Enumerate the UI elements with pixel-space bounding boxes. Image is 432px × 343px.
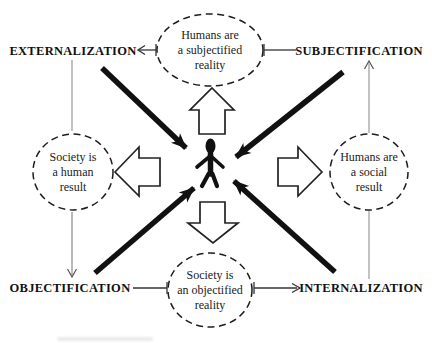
statement-line: Humans are bbox=[309, 150, 429, 165]
block-arrow-down-icon bbox=[188, 202, 238, 243]
statement-line: result bbox=[309, 180, 429, 195]
connector-left-ellipse-to-objectification bbox=[68, 212, 77, 277]
statement-line: Humans are bbox=[145, 28, 275, 43]
label-objectification: OBJECTIFICATION bbox=[4, 281, 136, 296]
statement-line: an objectified bbox=[145, 283, 275, 298]
solid-arrow-from-top-right-icon bbox=[236, 72, 343, 157]
statement-line: reality bbox=[145, 58, 275, 73]
statement-bottom: Society is an objectified reality bbox=[145, 268, 275, 313]
solid-arrow-from-bottom-left-icon bbox=[95, 188, 194, 273]
statement-line: reality bbox=[145, 298, 275, 313]
statement-line: Society is bbox=[13, 150, 133, 165]
statement-right: Humans are a social result bbox=[309, 150, 429, 195]
person-icon bbox=[197, 139, 223, 187]
statement-line: a human bbox=[13, 165, 133, 180]
solid-arrow-from-top-left-icon bbox=[102, 68, 186, 148]
social-construction-diagram: EXTERNALIZATION SUBJECTIFICATION OBJECTI… bbox=[0, 0, 432, 343]
statement-top: Humans are a subjectified reality bbox=[145, 28, 275, 73]
cropped-caption-artifact bbox=[57, 337, 153, 341]
label-subjectification: SUBJECTIFICATION bbox=[293, 44, 425, 59]
label-externalization: EXTERNALIZATION bbox=[7, 44, 139, 59]
connector-right-ellipse-to-subjectification bbox=[365, 61, 374, 133]
label-internalization: INTERNALIZATION bbox=[295, 281, 427, 296]
statement-line: result bbox=[13, 180, 133, 195]
statement-left: Society is a human result bbox=[13, 150, 133, 195]
block-arrow-up-icon bbox=[190, 88, 234, 134]
statement-line: a subjectified bbox=[145, 43, 275, 58]
statement-line: a social bbox=[309, 165, 429, 180]
statement-line: Society is bbox=[145, 268, 275, 283]
